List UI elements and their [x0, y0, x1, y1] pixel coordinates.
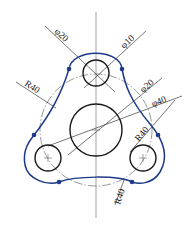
technical-drawing: φ20 φ10 φ20 φ40 R40 R40 R40: [0, 0, 196, 235]
tangent-point: [32, 133, 37, 138]
dim-top-outer-dia: φ20: [53, 26, 71, 44]
dim-center-boss-dia: φ40: [150, 94, 168, 109]
tangent-point: [67, 67, 72, 72]
tangent-point: [130, 180, 135, 185]
dim-center-hole-dia: φ20: [138, 77, 156, 94]
tangent-point: [57, 180, 62, 185]
tangent-point: [120, 67, 125, 72]
leader-top-hole: [84, 31, 146, 88]
dim-bottom-r40: R40: [112, 187, 126, 205]
center-mark-left: [44, 154, 52, 162]
dim-top-hole-dia: φ10: [119, 33, 137, 51]
dim-right-r40: R40: [133, 125, 151, 144]
tangent-point: [156, 133, 161, 138]
